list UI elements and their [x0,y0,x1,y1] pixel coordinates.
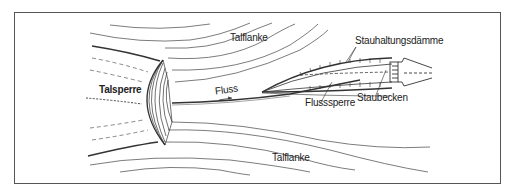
reservoir-dikes [262,58,392,96]
dashed-line [92,130,148,140]
contour-line [168,130,428,172]
arch-dam [147,60,172,145]
leader-line [348,47,356,62]
label-reservoir: Staubecken [357,92,408,103]
dashed-line [90,70,143,82]
label-valley-flank-top: Talflanke [230,32,268,43]
contour-line [172,122,430,148]
contour-line [165,142,355,170]
label-valley-flank-bottom: Talflanke [272,152,310,163]
upstream-bank-top [92,46,160,61]
flow-arrow-icon [219,97,232,101]
river-barrage [390,58,432,86]
dashed-line [92,58,148,72]
dam-diagram [0,0,516,194]
upstream-bank-bottom [88,142,158,156]
label-reservoir-dikes: Stauhaltungsdämme [355,35,443,46]
contour-line [120,167,250,175]
label-river-barrage: Flusssperre [305,97,355,108]
contour-line [110,24,210,28]
contour-line [172,24,318,70]
dashed-line [90,120,143,128]
reservoir-center-dashed [86,98,142,104]
label-dam: Talsperre [99,84,141,95]
dike-hatching [300,58,380,90]
